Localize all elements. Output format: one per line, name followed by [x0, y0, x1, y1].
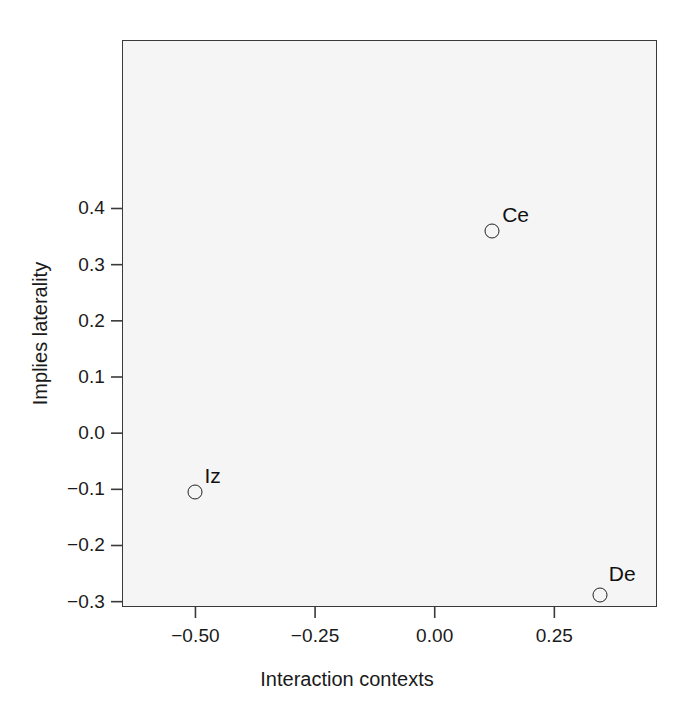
- y-tick-label: 0.1: [78, 366, 105, 388]
- y-tick-label: 0.3: [78, 254, 105, 276]
- data-point-label: Ce: [502, 203, 529, 227]
- y-tick-label: 0.0: [78, 422, 105, 444]
- x-tick-label: 0.00: [416, 625, 453, 647]
- data-point-marker: [592, 588, 607, 603]
- y-tick-label: −0.1: [67, 478, 105, 500]
- plot-area: [122, 40, 657, 607]
- y-tick-label: 0.2: [78, 310, 105, 332]
- x-tick-label: −0.50: [171, 625, 220, 647]
- y-tick-label: −0.2: [67, 534, 105, 556]
- data-point-marker: [485, 223, 500, 238]
- y-tick-label: 0.4: [78, 197, 105, 219]
- scatter-plot-figure: −0.3−0.2−0.10.00.10.20.30.4−0.50−0.250.0…: [0, 0, 694, 717]
- x-tick-label: 0.25: [536, 625, 573, 647]
- y-tick-label: −0.3: [67, 591, 105, 613]
- data-point-label: De: [609, 562, 636, 586]
- x-axis-title: Interaction contexts: [0, 668, 694, 691]
- data-point-marker: [188, 485, 203, 500]
- x-tick-label: −0.25: [291, 625, 340, 647]
- data-point-label: Iz: [204, 464, 220, 488]
- y-axis-title: Implies laterality: [29, 204, 52, 464]
